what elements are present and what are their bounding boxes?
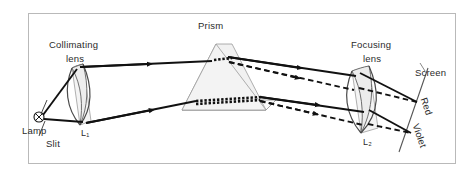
focusing-lens-caption-line1: Focusing: [351, 39, 391, 50]
collimating-lens-shape: [67, 64, 91, 125]
slit-label: Slit: [46, 138, 60, 149]
focusing-lens-caption-line2: lens: [363, 53, 381, 64]
collimating-lens-caption-line1: Collimating: [49, 39, 98, 50]
optics-diagram-svg: [0, 0, 472, 179]
collimating-lens-caption-line2: lens: [66, 53, 84, 64]
screen-label: Screen: [415, 67, 446, 78]
lamp-icon: [34, 112, 44, 122]
lens2-label: L₂: [363, 137, 372, 148]
prism-label: Prism: [198, 20, 223, 31]
lamp-label: Lamp: [22, 125, 47, 136]
diagram-stage: Collimating lens Prism Focusing lens Scr…: [0, 0, 472, 179]
lens1-label: L₁: [81, 128, 89, 139]
